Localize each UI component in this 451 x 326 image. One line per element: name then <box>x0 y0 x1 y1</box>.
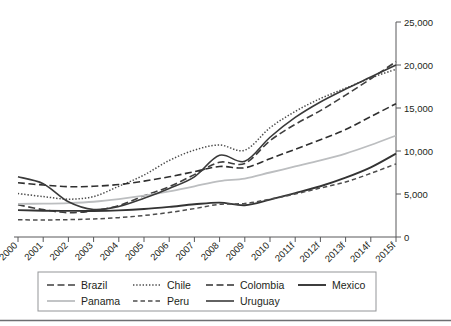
series-line-uruguay <box>18 65 396 210</box>
chart-canvas: 05,00010,00015,00020,00025,0002000200120… <box>0 0 451 326</box>
series-line-brazil <box>18 62 396 213</box>
x-tick-label: 2009 <box>223 240 246 263</box>
legend-item-colombia[interactable]: Colombia <box>206 279 285 291</box>
y-tick-label: 15,000 <box>404 103 433 114</box>
x-tick-label: 2011f <box>273 239 297 263</box>
x-tick-label: 2007 <box>173 240 196 263</box>
x-tick-label: 2008 <box>198 240 221 263</box>
legend-label-panama: Panama <box>81 295 120 307</box>
legend-item-chile[interactable]: Chile <box>133 279 191 291</box>
series-line-panama <box>18 136 396 204</box>
x-tick-label: 2015f <box>373 239 398 264</box>
legend-label-colombia: Colombia <box>240 279 285 291</box>
y-tick-label: 10,000 <box>404 146 433 157</box>
x-tick-label: 2001 <box>22 240 45 263</box>
legend-label-mexico: Mexico <box>332 279 365 291</box>
legend-label-chile: Chile <box>167 279 191 291</box>
y-tick-label: 20,000 <box>404 60 433 71</box>
legend-label-brazil: Brazil <box>81 279 107 291</box>
y-tick-label: 0 <box>404 232 409 243</box>
legend-label-peru: Peru <box>167 295 189 307</box>
x-tick-label: 2004 <box>97 240 120 263</box>
x-tick-label: 2005 <box>123 240 146 263</box>
legend-label-uruguay: Uruguay <box>240 295 280 307</box>
series-line-colombia <box>18 104 396 187</box>
legend-item-peru[interactable]: Peru <box>133 295 189 307</box>
line-chart: 05,00010,00015,00020,00025,0002000200120… <box>0 0 451 326</box>
x-tick-label: 2006 <box>148 240 171 263</box>
y-tick-label: 5,000 <box>404 189 428 200</box>
y-tick-label: 25,000 <box>404 17 433 28</box>
legend-item-uruguay[interactable]: Uruguay <box>206 295 280 307</box>
legend-item-brazil[interactable]: Brazil <box>47 279 107 291</box>
x-tick-label: 2000 <box>0 240 19 263</box>
x-tick-label: 2014f <box>348 239 373 264</box>
x-tick-label: 2012f <box>297 239 322 264</box>
x-tick-label: 2013f <box>322 239 347 264</box>
x-tick-label: 2003 <box>72 240 95 263</box>
legend-item-panama[interactable]: Panama <box>47 295 120 307</box>
legend-item-mexico[interactable]: Mexico <box>298 279 365 291</box>
x-tick-label: 2010 <box>249 240 272 263</box>
x-tick-label: 2002 <box>47 240 70 263</box>
